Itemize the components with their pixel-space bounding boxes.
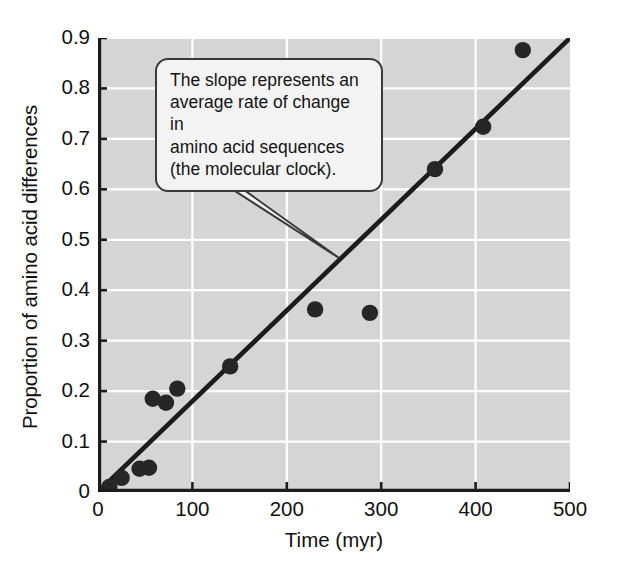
y-tick-label: 0.2 (44, 380, 90, 401)
data-point (515, 42, 531, 58)
data-point (158, 395, 174, 411)
y-tick-label: 0.5 (44, 229, 90, 250)
callout-box: The slope represents an average rate of … (155, 58, 383, 192)
y-tick-label: 0.4 (44, 279, 90, 300)
data-point (362, 305, 378, 321)
data-point (113, 470, 129, 486)
x-tick-label: 0 (63, 499, 133, 520)
x-tick-label: 300 (346, 499, 416, 520)
y-tick-label: 0.8 (44, 77, 90, 98)
data-point (169, 380, 185, 396)
x-tick-label: 200 (252, 499, 322, 520)
data-point (141, 460, 157, 476)
y-tick-label: 0.7 (44, 128, 90, 149)
caption-remnant (0, 556, 617, 570)
x-tick-label: 500 (535, 499, 605, 520)
y-axis-title: Proportion of amino acid differences (18, 52, 42, 482)
data-point (222, 358, 238, 374)
y-tick-label: 0.1 (44, 431, 90, 452)
data-point (307, 301, 323, 317)
x-axis-title: Time (myr) (98, 528, 570, 552)
data-point (475, 119, 491, 135)
y-tick-label: 0.6 (44, 178, 90, 199)
y-tick-label: 0.3 (44, 330, 90, 351)
x-tick-label: 400 (441, 499, 511, 520)
callout-text: The slope represents an average rate of … (170, 69, 368, 180)
x-tick-label: 100 (157, 499, 227, 520)
data-point (427, 161, 443, 177)
y-tick-label: 0.9 (44, 27, 90, 48)
figure-container: Proportion of amino acid differences 00.… (0, 0, 617, 570)
